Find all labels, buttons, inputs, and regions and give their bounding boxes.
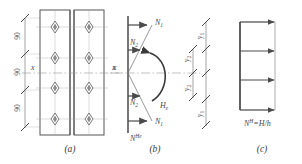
panel-c: NH=H/h (c) — [240, 22, 275, 155]
dimension-chain-a — [21, 14, 29, 131]
splice-plates — [40, 10, 104, 135]
formula-label-NH: NH=H/h — [243, 118, 271, 129]
dimension-label-90-top: 90 — [13, 32, 22, 40]
force-label-N2-top: N2 — [129, 38, 138, 48]
moment-label-He: He — [159, 101, 169, 111]
dimension-label-90-middle: 90 — [13, 68, 22, 76]
panel-caption-c: (c) — [257, 144, 268, 155]
distance-label-y1-bottom: y1 — [195, 111, 205, 118]
panel-caption-b: (b) — [149, 144, 160, 155]
base-force-label-NHe: NHe — [129, 133, 142, 144]
engineering-figure: 90 90 90 — [0, 0, 302, 164]
dimension-label-90-bottom: 90 — [13, 104, 22, 112]
panel-b: x N1 N2 N2 N1 He NHe — [110, 16, 210, 155]
panel-a: 90 90 90 — [13, 10, 122, 155]
panel-caption-a: (a) — [64, 144, 75, 155]
distance-label-y2-bottom: y2 — [182, 85, 192, 92]
moment-arc-He — [150, 53, 165, 101]
axis-label-x-panel-b: x — [111, 63, 116, 72]
distance-label-y1-top: y1 — [195, 33, 205, 40]
force-label-N2-bottom: N2 — [129, 98, 138, 108]
force-label-N1-top: N1 — [154, 18, 163, 28]
shear-block-outline — [240, 22, 275, 110]
force-label-N1-bottom: N1 — [154, 117, 163, 127]
axis-label-x-left: x — [30, 63, 35, 72]
distance-label-y2-top: y2 — [182, 56, 192, 63]
